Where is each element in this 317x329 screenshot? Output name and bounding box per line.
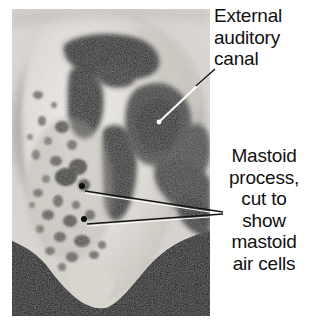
figure-root: External auditory canal Mastoid process,… xyxy=(0,0,317,329)
photograph-canvas xyxy=(12,9,210,316)
label-mastoid-process: Mastoid process, cut to show mastoid air… xyxy=(212,145,316,274)
temporal-bone-photograph xyxy=(12,9,210,316)
label-external-auditory-canal: External auditory canal xyxy=(214,5,314,70)
